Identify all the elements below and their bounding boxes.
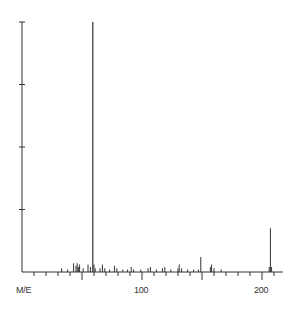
x-axis-label: M/E — [16, 285, 31, 295]
spectrum-peaks — [62, 22, 272, 272]
x-tick-label-100: 100 — [134, 285, 148, 295]
x-tick-label-200: 200 — [254, 285, 268, 295]
chart-axes — [19, 22, 283, 280]
mass-spectrum-chart — [0, 0, 294, 314]
